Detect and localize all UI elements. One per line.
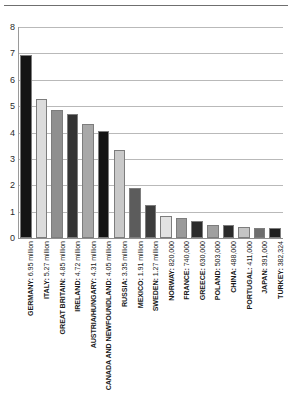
category-label-canada-and-newfoundland: CANADA AND NEWFOUNDLAND: 4.05 million bbox=[106, 241, 113, 390]
bar-portugal bbox=[238, 227, 250, 238]
category-label-great-britain: GREAT BRITAIN: 4.85 million bbox=[60, 241, 67, 334]
y-tick-label-2: 2 bbox=[0, 181, 15, 190]
x-axis-category-labels: GERMANY: 6.95 millionITALY: 5.27 million… bbox=[18, 241, 283, 408]
category-label-portugal: PORTUGAL: 411,000 bbox=[247, 241, 254, 309]
x-axis-line bbox=[18, 238, 283, 239]
category-label-mexico: MEXICO: 1.91 million bbox=[138, 241, 145, 308]
category-label-ireland: IRELAND: 4.72 million bbox=[75, 241, 82, 312]
category-label-france: FRANCE: 740,000 bbox=[184, 241, 191, 300]
category-label-sweden: SWEDEN: 1.27 million bbox=[153, 241, 160, 311]
category-label-poland: POLAND: 503,000 bbox=[215, 241, 222, 300]
category-label-italy: ITALY: 5.27 million bbox=[44, 241, 51, 299]
bar-turkey bbox=[269, 228, 281, 238]
bar-canada-and-newfoundland bbox=[98, 131, 110, 238]
y-axis-tick-labels: 012345678 bbox=[0, 27, 15, 238]
bar-italy bbox=[36, 99, 48, 238]
bar-austria-hungary bbox=[82, 124, 94, 238]
category-label-norway: NORWAY: 820,000 bbox=[169, 241, 176, 301]
bar-ireland bbox=[67, 114, 79, 238]
category-label-austria-hungary: AUSTRIA/HUNGARY: 4.31 million bbox=[91, 241, 98, 348]
bar-france bbox=[176, 218, 188, 238]
bar-greece bbox=[191, 221, 203, 238]
category-label-germany: GERMANY: 6.95 million bbox=[28, 241, 35, 316]
y-tick-label-1: 1 bbox=[0, 207, 15, 216]
category-label-russia: RUSSIA: 3.35 million bbox=[122, 241, 129, 307]
bar-norway bbox=[160, 216, 172, 238]
y-tick-label-6: 6 bbox=[0, 75, 15, 84]
top-divider bbox=[4, 5, 288, 6]
y-tick-label-7: 7 bbox=[0, 49, 15, 58]
bar-poland bbox=[207, 225, 219, 238]
y-tick-label-3: 3 bbox=[0, 154, 15, 163]
y-tick-label-0: 0 bbox=[0, 234, 15, 243]
y-tick-label-5: 5 bbox=[0, 102, 15, 111]
y-tick-label-8: 8 bbox=[0, 23, 15, 32]
chart-root: 012345678 GERMANY: 6.95 millionITALY: 5.… bbox=[0, 0, 295, 408]
bar-series bbox=[18, 27, 283, 238]
y-tick-label-4: 4 bbox=[0, 128, 15, 137]
bar-great-britain bbox=[51, 110, 63, 238]
bar-sweden bbox=[145, 205, 157, 238]
category-label-japan: JAPAN: 391,000 bbox=[262, 241, 269, 294]
bar-germany bbox=[20, 55, 32, 238]
category-label-china: CHINA: 488,000 bbox=[231, 241, 238, 293]
bar-japan bbox=[254, 228, 266, 238]
category-label-greece: GREECE: 630,000 bbox=[200, 241, 207, 300]
bar-china bbox=[223, 225, 235, 238]
category-label-turkey: TURKEY: 382,324 bbox=[278, 241, 285, 299]
bar-mexico bbox=[129, 188, 141, 238]
bar-russia bbox=[114, 150, 126, 238]
